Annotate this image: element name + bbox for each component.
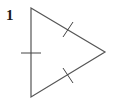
triangle-diagram <box>0 0 113 103</box>
lower-right-side-tick-mark <box>63 68 73 83</box>
upper-right-side-tick-mark <box>63 22 73 37</box>
equilateral-triangle <box>31 8 105 97</box>
